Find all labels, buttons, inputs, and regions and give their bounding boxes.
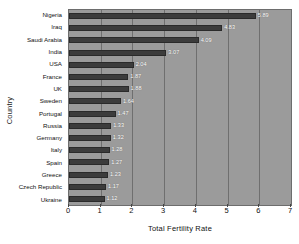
x-tick-mark — [195, 204, 196, 207]
bar-row: 3.07 — [69, 47, 291, 59]
y-tick-label: Greece — [6, 169, 65, 181]
x-tick-label: 1 — [98, 207, 102, 215]
x-tick-mark — [163, 204, 164, 207]
y-tick-label: Italy — [6, 144, 65, 156]
bar — [69, 159, 109, 165]
bar — [69, 111, 116, 117]
bar-row: 1.33 — [69, 120, 291, 132]
bar-value-label: 1.17 — [108, 184, 119, 190]
bar — [69, 98, 121, 104]
bar — [69, 196, 105, 202]
plot-area: 5.894.834.093.072.041.871.881.641.471.33… — [68, 9, 292, 206]
y-tick-label: France — [6, 71, 65, 83]
bar-row: 1.47 — [69, 108, 291, 120]
bar-series: 5.894.834.093.072.041.871.881.641.471.33… — [69, 10, 291, 205]
x-tick-mark — [227, 204, 228, 207]
x-tick-label: 7 — [288, 207, 292, 215]
bar-value-label: 1.32 — [113, 135, 124, 141]
bar-row: 1.27 — [69, 156, 291, 168]
bar — [69, 172, 108, 178]
bar-chart: Country Nigeria Iraq Saudi Arabia India … — [0, 0, 299, 244]
bar — [69, 37, 199, 43]
bar-value-label: 3.07 — [168, 50, 179, 56]
gridline — [291, 10, 292, 205]
y-tick-label: India — [6, 46, 65, 58]
bar-value-label: 1.64 — [123, 99, 134, 105]
bar-value-label: 5.89 — [258, 13, 269, 19]
y-tick-label: Spain — [6, 157, 65, 169]
x-tick-mark — [131, 204, 132, 207]
y-tick-label: Ukraine — [6, 194, 65, 206]
y-tick-label: UK — [6, 83, 65, 95]
x-tick-label: 0 — [66, 207, 70, 215]
y-tick-label: Germany — [6, 132, 65, 144]
bar — [69, 123, 111, 129]
bar-value-label: 1.27 — [111, 160, 122, 166]
bar — [69, 86, 129, 92]
y-tick-label: Russia — [6, 120, 65, 132]
bar — [69, 50, 166, 56]
x-axis-title: Total Fertility Rate — [68, 224, 292, 233]
y-tick-label: Iraq — [6, 21, 65, 33]
x-tick-label: 3 — [161, 207, 165, 215]
bar-row: 4.09 — [69, 34, 291, 46]
bar-row: 1.87 — [69, 71, 291, 83]
x-tick-mark — [100, 204, 101, 207]
bar-row: 1.88 — [69, 83, 291, 95]
bar-value-label: 1.23 — [110, 172, 121, 178]
bar-row: 1.23 — [69, 168, 291, 180]
x-tick-mark — [290, 204, 291, 207]
bar-row: 5.89 — [69, 10, 291, 22]
bar-row: 1.17 — [69, 181, 291, 193]
bar-row: 1.32 — [69, 132, 291, 144]
bar-row: 2.04 — [69, 59, 291, 71]
y-tick-label: USA — [6, 58, 65, 70]
x-axis-tick-labels: 01234567 — [68, 207, 292, 219]
y-tick-label: Czech Republic — [6, 181, 65, 193]
x-tick-label: 5 — [224, 207, 228, 215]
bar-value-label: 1.33 — [113, 123, 124, 129]
bar-value-label: 1.88 — [131, 86, 142, 92]
bar — [69, 13, 256, 19]
bar — [69, 135, 111, 141]
y-tick-label: Saudi Arabia — [6, 34, 65, 46]
y-tick-label: Portugal — [6, 108, 65, 120]
x-tick-mark — [258, 204, 259, 207]
bar-row: 4.83 — [69, 22, 291, 34]
bar — [69, 184, 106, 190]
bar — [69, 62, 134, 68]
y-tick-label: Sweden — [6, 95, 65, 107]
bar-value-label: 1.47 — [118, 111, 129, 117]
bar — [69, 25, 222, 31]
x-tick-label: 2 — [129, 207, 133, 215]
bar-value-label: 1.12 — [107, 196, 118, 202]
bar-value-label: 1.28 — [112, 147, 123, 153]
x-tick-label: 4 — [193, 207, 197, 215]
y-axis-tick-labels: Nigeria Iraq Saudi Arabia India USA Fran… — [6, 9, 65, 206]
x-tick-mark — [68, 204, 69, 207]
bar-row: 1.64 — [69, 95, 291, 107]
bar-value-label: 2.04 — [136, 62, 147, 68]
bar-value-label: 1.87 — [130, 74, 141, 80]
bar — [69, 74, 128, 80]
y-tick-label: Nigeria — [6, 9, 65, 21]
bar — [69, 147, 110, 153]
bar-row: 1.28 — [69, 144, 291, 156]
bar-value-label: 4.83 — [224, 25, 235, 31]
x-tick-label: 6 — [256, 207, 260, 215]
bar-value-label: 4.09 — [201, 38, 212, 44]
